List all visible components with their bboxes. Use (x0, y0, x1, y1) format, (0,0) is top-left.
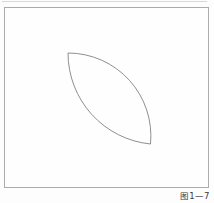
page-edge-line (2, 1, 207, 2)
figure-caption: 图1—7 (180, 191, 210, 202)
figure-frame (4, 7, 209, 188)
